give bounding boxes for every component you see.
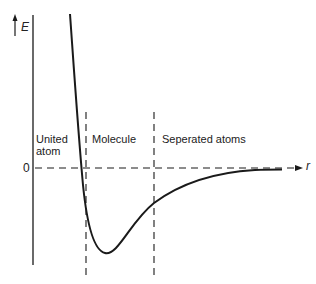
region-label-united-atom: United atom <box>36 133 68 157</box>
region-label-line1: United <box>36 133 68 145</box>
r-axis-label: r <box>306 160 310 172</box>
region-label-separated-atoms: Seperated atoms <box>162 133 246 145</box>
potential-energy-diagram: E 0 r United atom Molecule Seperated ato… <box>0 0 316 284</box>
energy-axis-label: E <box>21 21 29 33</box>
region-label-molecule: Molecule <box>92 133 136 145</box>
r-axis-arrow-icon <box>295 165 303 171</box>
region-label-line2: atom <box>36 145 60 157</box>
zero-label: 0 <box>23 162 30 174</box>
energy-axis-arrow-icon <box>13 14 18 36</box>
